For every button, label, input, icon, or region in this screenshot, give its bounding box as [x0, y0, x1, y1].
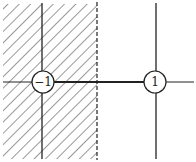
point-label: −1 — [34, 75, 52, 89]
point-label: 1 — [151, 75, 159, 89]
point-minus-one: −1 — [32, 71, 54, 93]
point-one: 1 — [144, 71, 166, 93]
diagram-canvas: −1 1 — [0, 0, 196, 162]
